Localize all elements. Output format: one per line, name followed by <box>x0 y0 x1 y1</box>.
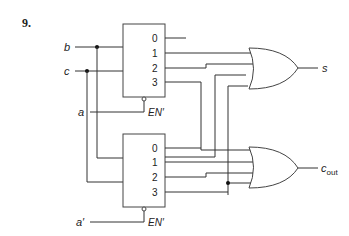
input-b-label: b <box>64 41 70 53</box>
decoder-bottom-out-1: 1 <box>152 157 158 168</box>
wire-c-bottom <box>87 71 123 182</box>
input-a-prime-label: a′ <box>76 216 85 228</box>
wire-a <box>90 101 144 112</box>
decoder-top-out-3: 3 <box>152 77 158 88</box>
output-s-label: s <box>322 62 328 74</box>
decoder-bottom-out-0: 0 <box>152 143 158 154</box>
decoder-top <box>123 24 165 97</box>
decoder-top-out-0: 0 <box>152 33 158 44</box>
or-gate-cout <box>249 147 298 188</box>
wire-top-out-2-to-s <box>165 64 253 68</box>
decoder-bottom <box>123 134 165 207</box>
decoder-bottom-out-2: 2 <box>152 172 158 183</box>
output-cout-label: cout <box>321 162 338 177</box>
circuit-diagram: 9. b c 0 1 2 3 a EN′ 0 1 2 3 a′ EN′ s co… <box>0 0 349 236</box>
decoder-top-out-1: 1 <box>152 48 158 59</box>
wire-up-to-s-3 <box>215 75 246 157</box>
input-c-label: c <box>64 65 70 77</box>
wire-up-to-s-4 <box>228 86 248 195</box>
wire-bottom-out-2-to-cout <box>165 173 253 177</box>
cout-subscript: out <box>327 168 339 177</box>
junction-dot-cout <box>226 181 230 185</box>
enable-label-top: EN′ <box>148 107 165 118</box>
wire-a-prime <box>90 211 144 222</box>
decoder-top-out-2: 2 <box>152 63 158 74</box>
or-gate-s <box>249 48 298 89</box>
input-a-label: a <box>78 106 84 118</box>
decoder-bottom-out-3: 3 <box>152 187 158 198</box>
enable-bubble-top <box>142 97 146 101</box>
wire-b-bottom <box>97 47 123 158</box>
wire-top-out-3-to-cout <box>165 82 251 150</box>
enable-label-bottom: EN′ <box>148 217 165 228</box>
enable-bubble-bottom <box>142 207 146 211</box>
problem-number: 9. <box>22 16 31 30</box>
